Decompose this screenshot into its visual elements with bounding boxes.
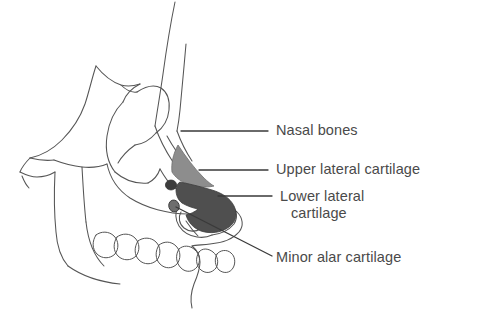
anatomical-diagram: Nasal bones Upper lateral cartilage Lowe… — [0, 0, 483, 314]
infraorbital-suture — [118, 145, 135, 163]
minor-alar-cartilage-upper — [165, 180, 176, 190]
zygomatic-arch — [123, 84, 140, 102]
diagram-canvas — [0, 0, 483, 314]
mastoid-tip — [20, 172, 55, 177]
skin-profile-forehead — [155, 2, 175, 126]
zygomatic-lower-edge — [135, 133, 156, 145]
mandible-ramus-posterior — [54, 172, 68, 266]
maxilla-body — [106, 102, 123, 172]
styloid-detail — [22, 176, 29, 188]
upper-lateral-cartilage-shape — [172, 145, 214, 187]
label-lower-lateral-cartilage: Lower lateral cartilage — [280, 188, 364, 222]
label-minor-alar-cartilage: Minor alar cartilage — [276, 249, 401, 266]
sphenoid-lower — [20, 158, 30, 172]
columella-upper-lip — [191, 246, 200, 308]
label-lower-lateral-cartilage-line2: cartilage — [280, 205, 364, 222]
skull-outline-group — [20, 2, 242, 308]
mandible-coronoid — [82, 167, 86, 222]
cranial-base-lower — [30, 158, 54, 160]
maxilla-anterior — [115, 172, 148, 183]
frontal-bone-line — [177, 44, 186, 131]
orbital-rim-upper — [96, 66, 140, 86]
maxilla-to-nose — [148, 169, 160, 183]
pterygoid-line — [54, 160, 107, 167]
label-nasal-bones: Nasal bones — [276, 122, 358, 139]
label-lower-lateral-cartilage-line1: Lower lateral — [280, 188, 364, 204]
label-upper-lateral-cartilage: Upper lateral cartilage — [276, 161, 420, 178]
zygomatic-bone — [137, 86, 169, 133]
lower-lateral-cartilage-shape — [176, 182, 236, 233]
mandible-body-lower — [68, 266, 120, 284]
temporal-line — [30, 66, 96, 158]
minor-alar-cartilage-lower — [167, 199, 181, 214]
teeth-group — [93, 232, 235, 272]
mandible-angle — [86, 222, 104, 266]
